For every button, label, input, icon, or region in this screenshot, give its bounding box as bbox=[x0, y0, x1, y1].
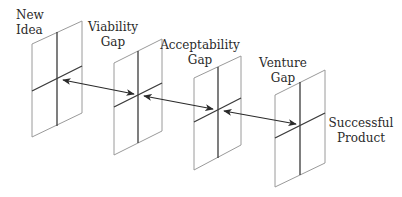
label-new-idea: New Idea bbox=[16, 8, 44, 38]
panel-2 bbox=[114, 39, 162, 155]
venture-gap-arrow-double-arrow-icon bbox=[224, 111, 296, 124]
innovation-gap-diagram: New Idea Viability Gap Acceptability Gap… bbox=[0, 0, 402, 197]
panel-4 bbox=[275, 70, 325, 187]
label-successful-product: Successful Product bbox=[329, 116, 394, 146]
diagram-graphics bbox=[0, 0, 402, 197]
label-viability-gap: Viability Gap bbox=[88, 20, 138, 50]
label-acceptability-gap: Acceptability Gap bbox=[160, 38, 240, 68]
panel-1 bbox=[32, 21, 82, 137]
label-venture-gap: Venture Gap bbox=[259, 56, 307, 86]
viability-gap-arrow-double-arrow-icon bbox=[63, 80, 134, 94]
acceptability-gap-arrow-double-arrow-icon bbox=[144, 96, 213, 109]
